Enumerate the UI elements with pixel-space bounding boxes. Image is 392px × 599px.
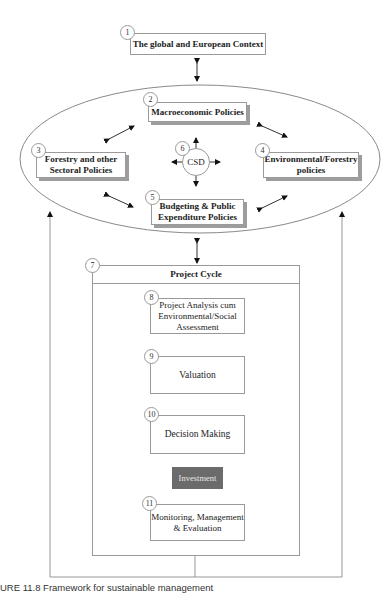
budgeting-box: Budgeting & Public Expenditure Policies (151, 199, 244, 225)
project-analysis-label-3: Assessment (176, 322, 219, 333)
project-analysis-box: Project Analysis cum Environmental/Socia… (150, 298, 245, 334)
monitoring-box: Monitoring, Management & Evaluation (150, 504, 245, 541)
number-badge-1: 1 (120, 25, 135, 40)
context-label: The global and European Context (133, 39, 263, 50)
environmental-label-1: Environmental/Forestry (264, 154, 357, 165)
macroeconomic-label: Macroeconomic Policies (151, 107, 244, 118)
investment-box: Investment (172, 467, 223, 489)
monitoring-label-1: Monitoring, Management (151, 512, 243, 523)
figure-caption: URE 11.8 Framework for sustainable manag… (0, 582, 213, 593)
forestry-sectoral-box: Forestry and other Sectoral Policies (36, 152, 126, 178)
number-badge-2: 2 (143, 92, 158, 107)
valuation-label: Valuation (179, 370, 215, 381)
macroeconomic-policies-box: Macroeconomic Policies (148, 102, 247, 122)
number-badge-11: 11 (142, 496, 157, 511)
valuation-box: Valuation (150, 356, 245, 394)
budgeting-label-1: Budgeting & Public (159, 201, 235, 212)
project-analysis-label-2: Environmental/Social (158, 311, 236, 322)
decision-label: Decision Making (165, 429, 231, 440)
investment-label: Investment (179, 473, 217, 483)
budgeting-label-2: Expenditure Policies (158, 212, 237, 223)
number-badge-6: 6 (175, 141, 190, 156)
forestry-label-2: Sectoral Policies (50, 165, 113, 176)
monitoring-label-2: & Evaluation (173, 523, 221, 534)
number-badge-9: 9 (144, 349, 159, 364)
number-badge-4: 4 (255, 143, 270, 158)
context-box: The global and European Context (130, 33, 266, 55)
environmental-label-2: policies (297, 165, 326, 176)
number-badge-3: 3 (31, 143, 46, 158)
number-badge-8: 8 (144, 290, 159, 305)
number-badge-7: 7 (85, 258, 100, 273)
decision-making-box: Decision Making (150, 415, 245, 454)
project-analysis-label-1: Project Analysis cum (159, 300, 236, 311)
project-cycle-label: Project Cycle (170, 269, 222, 279)
csd-label: CSD (187, 157, 205, 167)
number-badge-10: 10 (144, 407, 159, 422)
number-badge-5: 5 (145, 190, 160, 205)
environmental-policies-box: Environmental/Forestry policies (263, 152, 359, 178)
forestry-label-1: Forestry and other (45, 154, 117, 165)
project-cycle-title: Project Cycle (92, 265, 300, 284)
